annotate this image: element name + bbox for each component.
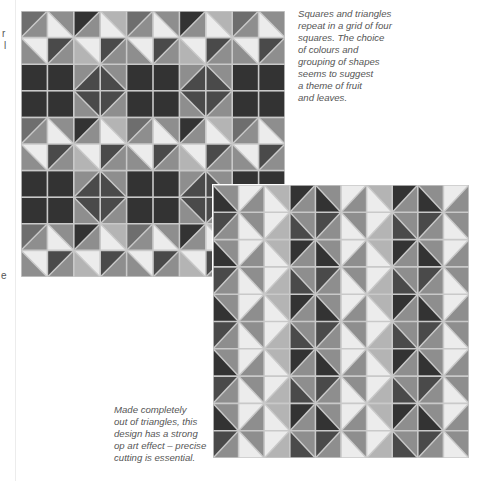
mosaic-tile-piece — [154, 65, 179, 90]
mosaic-tile-piece — [154, 171, 179, 196]
margin-text-fragment-3: e — [1, 270, 7, 281]
mosaic-tile-piece — [48, 92, 73, 117]
mosaic-tile-piece — [127, 198, 152, 223]
mosaic-tile-piece — [48, 171, 73, 196]
margin-text-fragment-2: l — [4, 40, 6, 51]
mosaic-tile-piece — [22, 171, 47, 196]
mosaic-op-art-triangles-photo — [213, 185, 469, 458]
mosaic-tile-piece — [127, 171, 152, 196]
mosaic-tile-piece — [48, 198, 73, 223]
mosaic-tile-piece — [127, 92, 152, 117]
mosaic-tile-piece — [48, 65, 73, 90]
caption-op-art-triangles: Made completely out of triangles, this d… — [114, 404, 206, 464]
mosaic-tile-piece — [233, 92, 258, 117]
mosaic-tile-piece — [22, 92, 47, 117]
mosaic-tile-piece — [259, 92, 284, 117]
mosaic-tile-piece — [154, 92, 179, 117]
mosaic-tile-piece — [154, 198, 179, 223]
mosaic-tile-piece — [22, 65, 47, 90]
mosaic-tile-piece — [127, 65, 152, 90]
mosaic-tile-piece — [259, 65, 284, 90]
margin-text-fragment-1: r — [2, 28, 5, 39]
page-margin-rule — [15, 0, 16, 481]
mosaic-tiles-grid — [213, 185, 469, 458]
mosaic-tile-piece — [22, 198, 47, 223]
mosaic-tile-piece — [233, 65, 258, 90]
caption-squares-and-triangles: Squares and triangles repeat in a grid o… — [298, 8, 392, 104]
